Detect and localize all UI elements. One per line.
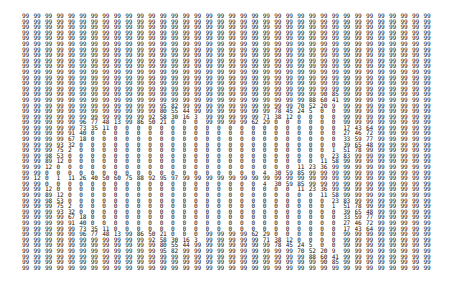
raster-canvas: 9999999999999999999999999999999999999999… bbox=[0, 0, 455, 282]
grid-cell: 99 bbox=[148, 265, 159, 271]
grid-cell: 99 bbox=[366, 265, 377, 271]
grid-cell: 99 bbox=[412, 265, 423, 271]
grid-cell: 99 bbox=[355, 265, 366, 271]
grid-cell: 99 bbox=[79, 265, 90, 271]
grid-cell: 99 bbox=[400, 265, 411, 271]
grid-cell: 99 bbox=[309, 265, 320, 271]
grid-cell: 99 bbox=[320, 265, 331, 271]
grid-cell: 99 bbox=[137, 265, 148, 271]
grid-cell: 99 bbox=[263, 265, 274, 271]
grid-cell: 99 bbox=[160, 265, 171, 271]
grid-cell: 99 bbox=[183, 265, 194, 271]
grid-cell: 99 bbox=[102, 265, 113, 271]
grid-cell: 99 bbox=[378, 265, 389, 271]
grid-cell: 99 bbox=[194, 265, 205, 271]
numeric-grid: 9999999999999999999999999999999999999999… bbox=[22, 13, 435, 270]
grid-cell: 99 bbox=[286, 265, 297, 271]
grid-cell: 99 bbox=[91, 265, 102, 271]
grid-cell: 99 bbox=[332, 265, 343, 271]
grid-cell: 99 bbox=[125, 265, 136, 271]
grid-cell: 99 bbox=[114, 265, 125, 271]
grid-row: 9999999999999999999999999999999999999999… bbox=[22, 265, 435, 271]
grid-cell: 99 bbox=[240, 265, 251, 271]
grid-cell: 99 bbox=[343, 265, 354, 271]
grid-cell: 99 bbox=[217, 265, 228, 271]
grid-cell: 99 bbox=[297, 265, 308, 271]
grid-cell: 99 bbox=[251, 265, 262, 271]
grid-cell: 99 bbox=[22, 265, 33, 271]
grid-cell: 99 bbox=[33, 265, 44, 271]
grid-cell: 99 bbox=[423, 265, 434, 271]
grid-cell: 99 bbox=[274, 265, 285, 271]
grid-cell: 99 bbox=[56, 265, 67, 271]
grid-cell: 99 bbox=[228, 265, 239, 271]
grid-cell: 99 bbox=[206, 265, 217, 271]
grid-cell: 99 bbox=[45, 265, 56, 271]
numeric-grid-body: 9999999999999999999999999999999999999999… bbox=[22, 13, 435, 270]
grid-cell: 99 bbox=[68, 265, 79, 271]
grid-cell: 99 bbox=[171, 265, 182, 271]
grid-cell: 99 bbox=[389, 265, 400, 271]
